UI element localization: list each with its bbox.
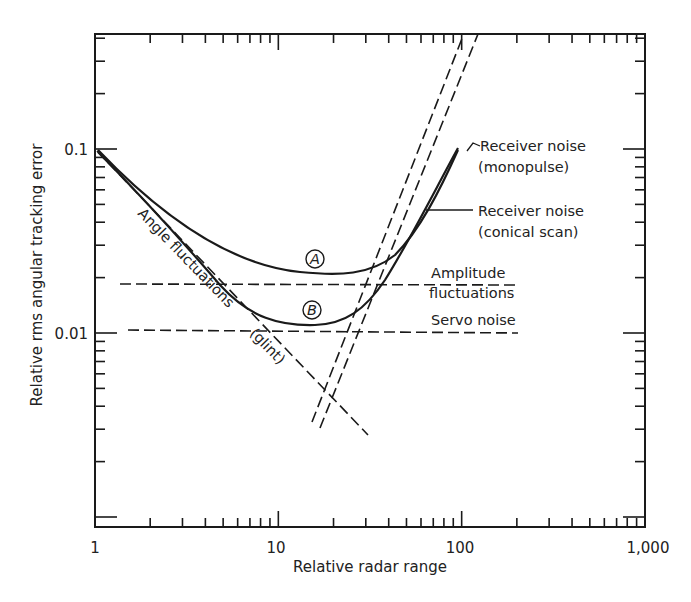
servo-noise-label: Servo noise <box>431 312 516 328</box>
servo-noise-line <box>128 330 518 333</box>
curve-b-label: B <box>307 302 317 318</box>
plot-frame <box>95 34 645 527</box>
axis-ticks <box>95 34 645 527</box>
x-tick-label-1000: 1,000 <box>627 539 670 557</box>
receiver-noise-monopulse-line <box>312 36 463 422</box>
chart: 1 10 100 1,000 0.1 0.01 Relative radar r… <box>0 0 691 602</box>
curve-a-label: A <box>309 251 320 267</box>
amplitude-label: Amplitude <box>431 265 505 281</box>
y-tick-label-0.01: 0.01 <box>55 325 88 343</box>
x-tick-label-10: 10 <box>266 539 285 557</box>
y-axis-title: Relative rms angular tracking error <box>28 143 46 407</box>
receiver-noise-monopulse-label-2: (monopulse) <box>478 159 569 175</box>
x-axis-title: Relative radar range <box>293 558 447 576</box>
receiver-noise-conical-label-2: (conical scan) <box>478 224 578 240</box>
y-tick-label-0.1: 0.1 <box>64 141 88 159</box>
x-tick-label-100: 100 <box>446 539 475 557</box>
receiver-noise-conical-line <box>320 34 478 428</box>
receiver-noise-conical-label: Receiver noise <box>478 203 584 219</box>
receiver-noise-monopulse-label: Receiver noise <box>480 138 586 154</box>
amplitude-label-2: fluctuations <box>429 285 514 301</box>
glint-label: Angle fluctuations <box>135 205 238 311</box>
monopulse-pointer <box>467 143 480 151</box>
x-tick-label-1: 1 <box>90 539 100 557</box>
curve-b <box>98 148 458 325</box>
